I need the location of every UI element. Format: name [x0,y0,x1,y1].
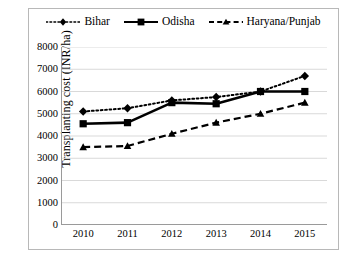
x-axis-tick-label: 2011 [117,229,138,240]
data-point-marker [301,72,309,80]
y-axis-tick-label: 4000 [37,131,58,142]
y-axis-tick-label: 6000 [37,86,58,97]
x-axis-tick-label: 2010 [73,229,94,240]
series-line [83,76,305,112]
x-axis-tick-label: 2015 [294,229,315,240]
y-axis-tick-label: 3000 [37,153,58,164]
y-axis-tick-label: 8000 [37,42,58,53]
legend-label-odisha: Odisha [162,16,195,28]
data-point-marker [123,104,131,112]
y-axis-tick-label: 7000 [37,64,58,75]
data-point-marker [213,100,220,107]
data-point-marker [301,88,308,95]
series-odisha [80,88,309,127]
data-point-marker [79,107,87,115]
data-point-marker [80,120,87,127]
y-axis-tick-label: 1000 [37,198,58,209]
y-axis-tick-label: 2000 [37,175,58,186]
legend-item-bihar[interactable]: Bihar [46,16,110,28]
data-point-marker [257,88,264,95]
x-axis-tick-label: 2013 [206,229,227,240]
legend-item-odisha[interactable]: Odisha [124,16,195,28]
legend-label-bihar: Bihar [84,16,110,28]
x-axis-tick-label: 2014 [250,229,271,240]
y-axis-tick-labels: 010002000300040005000600070008000 [22,47,58,225]
legend-label-haryana-punjab: Haryana/Punjab [247,16,321,28]
series-line [83,92,305,124]
x-axis-tick-labels: 201020112012201320142015 [61,225,327,243]
legend-item-haryana-punjab[interactable]: Haryana/Punjab [209,16,321,28]
solid-line-square-marker-icon [124,17,158,27]
chart-figure: Bihar Odisha Haryana/Punjab Transplant [0,0,347,261]
plot-area [61,47,327,225]
series-bihar [79,72,309,116]
data-point-marker [168,99,175,106]
x-axis-tick-label: 2012 [161,229,182,240]
data-point-marker [124,119,131,126]
y-axis-tick-label: 5000 [37,109,58,120]
y-axis-tick-label: 0 [53,220,58,231]
dashed-line-triangle-marker-icon [209,17,243,27]
series-haryana-punjab [79,99,308,150]
data-point-marker [212,93,220,101]
